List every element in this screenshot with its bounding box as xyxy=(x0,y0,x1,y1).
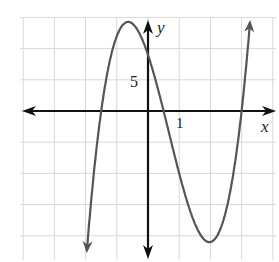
cubic-curve xyxy=(87,22,250,251)
curve-arrowheads xyxy=(83,20,255,253)
y-axis-label: y xyxy=(157,18,165,38)
x-axis-label: x xyxy=(261,117,269,137)
y-tick-label: 5 xyxy=(130,73,138,91)
x-tick-label: 1 xyxy=(176,115,184,132)
graph-canvas xyxy=(0,0,279,262)
